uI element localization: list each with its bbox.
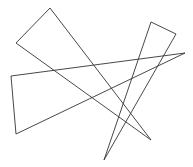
- triangle-long-horizontal: [11, 53, 185, 134]
- triangle-tall-right: [104, 22, 176, 160]
- triangles-diagram: [0, 0, 193, 167]
- drawing-canvas: [0, 0, 193, 167]
- triangle-upper-left: [16, 8, 151, 140]
